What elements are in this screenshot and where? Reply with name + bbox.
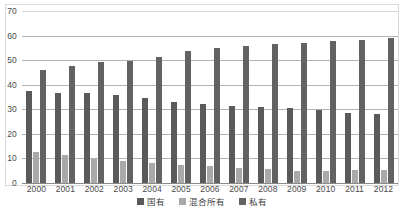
bar-group-2006	[196, 11, 225, 183]
bar-2011-series-2	[352, 170, 358, 183]
bar-group-2001	[51, 11, 80, 183]
bar-2004-series-1	[142, 98, 148, 184]
x-tick-label-2001: 2001	[51, 184, 80, 194]
bar-2010-series-2	[323, 171, 329, 183]
y-tick-label-0: 0	[12, 179, 17, 188]
bar-group-2012	[369, 11, 398, 183]
bar-group-2005	[167, 11, 196, 183]
chart-legend: 国有混合所有私有	[0, 195, 403, 207]
y-tick-label-50: 50	[7, 56, 17, 65]
y-tick-label-20: 20	[7, 130, 17, 139]
x-tick-label-2003: 2003	[109, 184, 138, 194]
x-tick-label-2012: 2012	[369, 184, 398, 194]
bar-2010-series-1	[316, 110, 322, 183]
bar-2002-series-1	[84, 93, 90, 183]
bar-2000-series-1	[26, 91, 32, 183]
bar-2005-series-2	[178, 165, 184, 183]
bar-group-2011	[340, 11, 369, 183]
bar-2000-series-2	[33, 152, 39, 183]
bar-groups	[22, 11, 398, 183]
bar-group-2007	[224, 11, 253, 183]
bar-2003-series-2	[120, 161, 126, 183]
bar-2012-series-3	[388, 38, 394, 183]
y-tick-label-40: 40	[7, 80, 17, 89]
x-tick-label-2004: 2004	[138, 184, 167, 194]
bar-group-2008	[253, 11, 282, 183]
x-tick-label-2010: 2010	[311, 184, 340, 194]
legend-swatch-icon-3	[239, 198, 246, 205]
bar-2008-series-2	[265, 169, 271, 183]
y-tick-label-10: 10	[7, 154, 17, 163]
legend-label-3: 私有	[249, 195, 267, 207]
bar-2002-series-3	[98, 62, 104, 183]
bar-2012-series-2	[381, 170, 387, 183]
bar-2007-series-1	[229, 106, 235, 183]
legend-item-1[interactable]: 国有	[137, 195, 165, 207]
bar-2004-series-2	[149, 163, 155, 183]
y-tick-label-60: 60	[7, 31, 17, 40]
bar-2004-series-3	[156, 57, 162, 183]
bar-2008-series-3	[272, 44, 278, 183]
bar-chart: 706050403020100 200020012002200320042005…	[0, 0, 403, 209]
bar-2010-series-3	[330, 41, 336, 184]
bar-2009-series-2	[294, 171, 300, 183]
legend-item-2[interactable]: 混合所有	[179, 195, 225, 207]
y-tick-label-70: 70	[7, 7, 17, 16]
bar-group-2002	[80, 11, 109, 183]
bar-2007-series-3	[243, 46, 249, 183]
bar-2006-series-3	[214, 48, 220, 183]
bar-2001-series-1	[55, 93, 61, 183]
bar-2008-series-1	[258, 107, 264, 183]
plot-area	[22, 11, 398, 183]
bar-2005-series-1	[171, 102, 177, 183]
bar-group-2000	[22, 11, 51, 183]
legend-item-3[interactable]: 私有	[239, 195, 267, 207]
bar-2000-series-3	[40, 70, 46, 183]
x-tick-label-2000: 2000	[22, 184, 51, 194]
bar-2005-series-3	[185, 51, 191, 183]
bar-2003-series-1	[113, 95, 119, 183]
bar-2009-series-3	[301, 43, 307, 183]
bar-2003-series-3	[127, 61, 133, 183]
bar-2002-series-2	[91, 159, 97, 183]
x-tick-label-2002: 2002	[80, 184, 109, 194]
legend-swatch-icon-2	[179, 198, 186, 205]
x-tick-label-2009: 2009	[282, 184, 311, 194]
legend-swatch-icon-1	[137, 198, 144, 205]
bar-2001-series-3	[69, 66, 75, 183]
y-tick-label-30: 30	[7, 105, 17, 114]
bar-group-2003	[109, 11, 138, 183]
x-tick-label-2008: 2008	[253, 184, 282, 194]
x-axis-tick-labels: 2000200120022003200420052006200720082009…	[22, 184, 398, 194]
legend-label-2: 混合所有	[189, 195, 225, 207]
bar-2006-series-2	[207, 166, 213, 183]
bar-group-2010	[311, 11, 340, 183]
bar-group-2009	[282, 11, 311, 183]
bar-2007-series-2	[236, 168, 242, 183]
bar-group-2004	[138, 11, 167, 183]
x-tick-label-2006: 2006	[196, 184, 225, 194]
bar-2006-series-1	[200, 104, 206, 183]
bar-2009-series-1	[287, 108, 293, 183]
bar-2001-series-2	[62, 155, 68, 183]
bar-2012-series-1	[374, 114, 380, 183]
x-tick-label-2005: 2005	[167, 184, 196, 194]
x-tick-label-2011: 2011	[340, 184, 369, 194]
bar-2011-series-3	[359, 40, 365, 183]
legend-label-1: 国有	[147, 195, 165, 207]
bar-2011-series-1	[345, 113, 351, 183]
y-axis-tick-labels: 706050403020100	[0, 11, 20, 183]
x-tick-label-2007: 2007	[224, 184, 253, 194]
